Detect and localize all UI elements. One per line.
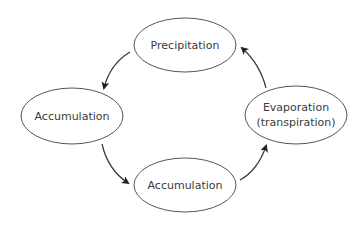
node-accumulation-left-label: Accumulation	[35, 110, 110, 123]
node-evaporation-label-line1: Evaporation	[263, 101, 329, 114]
node-accumulation-bottom: Accumulation	[134, 158, 236, 212]
node-accumulation-bottom-label: Accumulation	[148, 179, 223, 192]
node-evaporation-label-line2: (transpiration)	[256, 116, 335, 129]
node-accumulation-left: Accumulation	[21, 88, 123, 144]
node-evaporation-ellipse	[245, 86, 347, 144]
arrow-evaporation-to-precipitation	[242, 48, 266, 88]
node-precipitation: Precipitation	[134, 18, 236, 72]
arrow-accumulation-bottom-to-evaporation	[240, 146, 266, 180]
arrow-accumulation-left-to-accumulation-bottom	[102, 144, 128, 183]
node-evaporation: Evaporation (transpiration)	[245, 86, 347, 144]
arrow-precipitation-to-accumulation-left	[104, 52, 130, 88]
water-cycle-diagram: Precipitation Accumulation Accumulation …	[0, 0, 363, 228]
node-precipitation-label: Precipitation	[151, 39, 220, 52]
